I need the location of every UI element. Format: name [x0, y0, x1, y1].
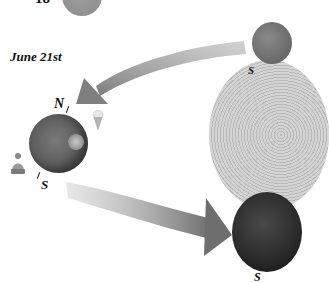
pole-label-north: N	[54, 96, 64, 112]
earth-cloud	[68, 134, 84, 150]
arrow-lower	[66, 182, 232, 256]
pole-label-s-bottom: S	[254, 270, 261, 283]
ice-cream-icon	[92, 110, 104, 132]
sun	[209, 60, 329, 210]
earth-position-bottom-right	[232, 192, 302, 272]
earth-position-top-right	[252, 22, 292, 64]
pole-label-south: S	[41, 177, 48, 193]
pole-label-s-top-right: S	[248, 64, 254, 76]
winter-hat-icon	[10, 153, 26, 174]
